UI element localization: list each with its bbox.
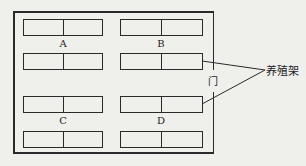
- callout-lines: [0, 0, 306, 166]
- rack-callout-label: 养殖架: [266, 62, 299, 78]
